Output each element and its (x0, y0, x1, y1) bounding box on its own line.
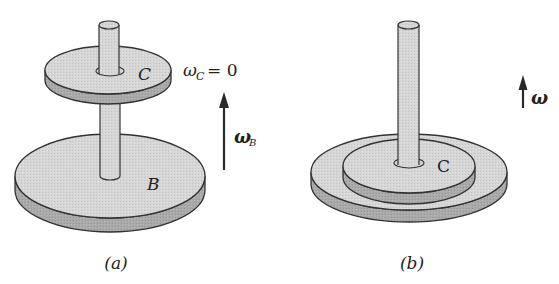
svg-text:C: C (196, 70, 205, 83)
disk-b-label: B (146, 174, 160, 194)
omega-label: ω (531, 87, 548, 108)
rod-b (398, 21, 419, 165)
rotating-disks-figure: C B ω C = 0 ω B (a) (0, 0, 559, 284)
panel-b: C ω (b) (311, 21, 548, 273)
disk-c-b-label: C (437, 156, 450, 176)
rod-a-middle (100, 98, 120, 180)
omega-b-arrow-icon (219, 92, 229, 170)
rod-a-top (99, 21, 119, 74)
svg-text:B: B (248, 137, 256, 148)
omega-b-label: ω B (234, 126, 256, 148)
omega-arrow-icon (519, 75, 528, 108)
caption-a: (a) (104, 253, 127, 273)
disk-c-label: C (138, 64, 151, 84)
panel-a: C B ω C = 0 ω B (a) (15, 21, 256, 273)
omega-c-equation: ω C = 0 (183, 60, 237, 83)
caption-b: (b) (400, 253, 424, 273)
svg-text:ω: ω (183, 60, 197, 80)
svg-text:= 0: = 0 (207, 60, 237, 80)
